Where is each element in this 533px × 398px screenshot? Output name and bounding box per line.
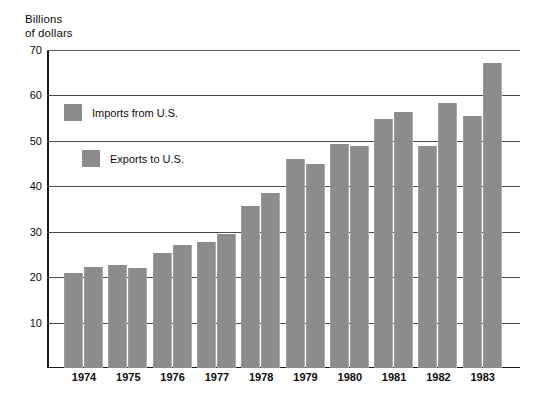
x-tick-label-1974: 1974	[72, 371, 96, 383]
bar-imports-1975	[108, 265, 127, 368]
bar-imports-1979	[286, 159, 305, 368]
bar-group-1977	[197, 50, 237, 368]
bar-imports-1974	[64, 273, 83, 368]
bar-exports-1981	[394, 112, 413, 368]
legend-label-exports: Exports to U.S.	[110, 153, 184, 165]
bar-exports-1977	[217, 234, 236, 368]
bar-imports-1982	[418, 146, 437, 368]
x-tick-label-1981: 1981	[382, 371, 406, 383]
bar-exports-1979	[306, 164, 325, 368]
legend-swatch-imports-icon	[64, 104, 82, 121]
bar-imports-1978	[241, 206, 260, 368]
bar-group-1983	[463, 50, 503, 368]
y-tick-label-60: 60	[30, 89, 42, 101]
legend-item-exports: Exports to U.S.	[82, 150, 184, 167]
bar-group-1980	[330, 50, 370, 368]
bar-exports-1980	[350, 146, 369, 368]
bar-exports-1983	[483, 63, 502, 368]
bar-exports-1974	[84, 267, 103, 368]
bar-imports-1977	[197, 242, 216, 368]
x-tick-label-1980: 1980	[338, 371, 362, 383]
y-tick-label-30: 30	[30, 226, 42, 238]
y-tick-label-10: 10	[30, 317, 42, 329]
bar-group-1982	[418, 50, 458, 368]
x-tick-label-1976: 1976	[160, 371, 184, 383]
bar-exports-1978	[261, 193, 280, 368]
x-tick-label-1978: 1978	[249, 371, 273, 383]
x-tick-label-1975: 1975	[116, 371, 140, 383]
bar-exports-1975	[128, 268, 147, 368]
x-tick-label-1983: 1983	[470, 371, 494, 383]
plot-area: 70605040302010	[47, 50, 520, 368]
y-tick-label-40: 40	[30, 180, 42, 192]
x-tick-label-1982: 1982	[426, 371, 450, 383]
bar-group-1976	[153, 50, 193, 368]
legend-label-imports: Imports from U.S.	[92, 107, 178, 119]
legend-item-imports: Imports from U.S.	[64, 104, 178, 121]
chart-screenshot: Billions of dollars 70605040302010 19741…	[0, 0, 533, 398]
x-tick-label-1979: 1979	[293, 371, 317, 383]
bar-group-1979	[286, 50, 326, 368]
y-axis-title: Billions of dollars	[25, 12, 73, 40]
bar-group-1978	[241, 50, 281, 368]
bar-imports-1983	[463, 116, 482, 368]
x-tick-label-1977: 1977	[205, 371, 229, 383]
bars-layer	[47, 50, 520, 368]
bar-imports-1980	[330, 144, 349, 368]
bar-imports-1981	[374, 119, 393, 368]
bar-exports-1976	[173, 245, 192, 368]
bar-imports-1976	[153, 253, 172, 368]
y-tick-label-50: 50	[30, 135, 42, 147]
x-axis-tick-labels: 1974197519761977197819791980198119821983	[47, 371, 520, 391]
bar-exports-1982	[438, 103, 457, 368]
bar-group-1975	[108, 50, 148, 368]
legend-swatch-exports-icon	[82, 150, 100, 167]
y-tick-label-20: 20	[30, 271, 42, 283]
bar-group-1981	[374, 50, 414, 368]
y-tick-label-70: 70	[30, 44, 42, 56]
bar-group-1974	[64, 50, 104, 368]
